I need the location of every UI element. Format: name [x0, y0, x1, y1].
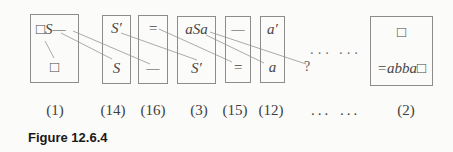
- domino-box-1: □S— □: [30, 14, 79, 83]
- mid-ellipsis-left: ···: [310, 47, 333, 61]
- mid-ellipsis-right: ···: [339, 47, 362, 61]
- domino-2-top-symbols: □: [397, 25, 406, 40]
- domino-box-14: S′ S: [102, 15, 131, 84]
- label-domino-12: (12): [259, 103, 284, 118]
- domino-box-16: = —: [138, 15, 168, 84]
- label-domino-14: (14): [101, 103, 126, 118]
- figure-12-6-4: □S— □ S′ S = — aSa S′ — = a′ a ··· ··· ?…: [0, 0, 453, 152]
- domino-1-top-symbols: □S—: [36, 22, 66, 37]
- domino-16-top-symbols: =: [148, 21, 158, 36]
- question-mark: ?: [304, 60, 310, 74]
- domino-15-bottom-symbols: =: [233, 60, 243, 75]
- domino-12-top-symbols: a′: [267, 22, 278, 37]
- domino-3-top-symbols: aSa: [185, 22, 208, 37]
- domino-box-15: — =: [225, 16, 251, 83]
- label-ellipsis-right: ...: [340, 103, 360, 118]
- domino-14-top-symbols: S′: [111, 21, 122, 36]
- domino-16-bottom-symbols: —: [146, 61, 159, 76]
- label-domino-1: (1): [46, 103, 64, 118]
- domino-3-bottom-symbols: S′: [191, 61, 202, 76]
- domino-1-bottom-symbols: □: [50, 60, 59, 75]
- label-domino-16: (16): [141, 103, 166, 118]
- domino-2-bottom-symbols: =abba□: [377, 61, 426, 76]
- label-domino-15: (15): [223, 103, 248, 118]
- label-domino-3: (3): [190, 103, 208, 118]
- domino-box-2: □ =abba□: [370, 16, 433, 86]
- label-ellipsis-left: ...: [311, 103, 331, 118]
- figure-caption: Figure 12.6.4: [28, 131, 107, 144]
- label-domino-2: (2): [397, 103, 415, 118]
- domino-15-top-symbols: —: [231, 22, 244, 37]
- domino-14-bottom-symbols: S: [113, 61, 121, 76]
- domino-box-12: a′ a: [260, 16, 285, 83]
- domino-12-bottom-symbols: a: [269, 60, 277, 75]
- domino-box-3: aSa S′: [177, 16, 216, 84]
